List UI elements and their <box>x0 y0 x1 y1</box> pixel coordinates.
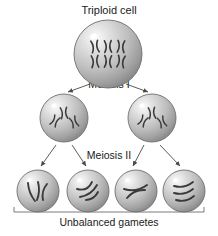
arrow-parent-to-right <box>126 84 148 92</box>
daughter-cell-right <box>128 94 176 142</box>
daughter-cell-left <box>40 94 88 142</box>
gamete-1 <box>17 170 59 212</box>
triploid-meiosis-diagram: Triploid cell Meiosis I Meiosis II Unbal… <box>0 0 218 236</box>
gamete-4-membrane <box>163 170 205 212</box>
diagram-canvas <box>0 0 218 236</box>
arrow-left-to-gamete-1 <box>41 145 56 166</box>
arrow-left-to-gamete-2 <box>72 145 86 166</box>
arrow-parent-to-left <box>68 84 90 92</box>
triploid-parent-cell <box>74 20 142 88</box>
daughter-cell-right-membrane <box>128 94 176 142</box>
daughter-cell-left-membrane <box>40 94 88 142</box>
gamete-4 <box>163 170 205 212</box>
cells-group <box>17 20 205 212</box>
gamete-3 <box>115 170 157 212</box>
arrow-right-to-gamete-4 <box>160 145 180 166</box>
triploid-parent-cell-membrane <box>74 20 142 88</box>
gamete-2-membrane <box>67 170 109 212</box>
arrow-right-to-gamete-3 <box>133 145 144 166</box>
gamete-2 <box>67 170 109 212</box>
gamete-1-membrane <box>17 170 59 212</box>
